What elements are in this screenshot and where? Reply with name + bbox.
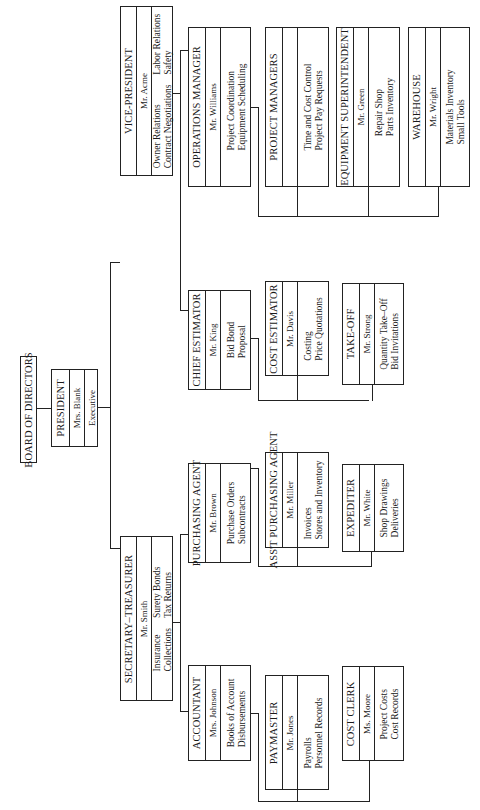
warehouse-duty: Small Tools	[456, 69, 467, 144]
costest-duty: Price Quotations	[314, 297, 325, 361]
paymaster-box[interactable]: PAYMASTER Mr. Jones PayrollsPersonnel Re…	[265, 675, 329, 790]
president-title: PRESIDENT	[54, 379, 66, 437]
connector-takeoff	[372, 385, 373, 401]
connector-chief-bottom	[258, 400, 369, 401]
st-title: SECRETARY–TREASURER	[122, 554, 134, 682]
asst-name: Mr. Miller	[285, 481, 295, 519]
accountant-box[interactable]: ACCOUNTANT Mrs. Johnson Books of Account…	[188, 665, 251, 761]
connector-to-acct	[180, 711, 188, 712]
purch-duty: Purchase Orders	[226, 482, 237, 545]
expediter-box[interactable]: EXPEDITER Mr. White Shop DrawingsDeliver…	[342, 464, 404, 552]
expediter-title: EXPEDITER	[345, 479, 357, 537]
costest-title: COST ESTIMATOR	[268, 284, 280, 373]
acct-title: ACCOUNTANT	[191, 677, 203, 750]
connector-cost-est	[297, 375, 298, 401]
operations-manager-box[interactable]: OPERATIONS MANAGER Mr. Williams Project …	[188, 27, 251, 187]
vp-name: Mr. Acme	[139, 73, 149, 109]
warehouse-title: WAREHOUSE	[411, 74, 423, 140]
ops-duty: Project Coordination	[226, 64, 237, 151]
asst-duty: Stores and Inventory	[314, 460, 325, 539]
purch-name: Mr. Brown	[208, 493, 218, 533]
expediter-duty: Shop Drawings	[379, 479, 390, 538]
expediter-duty: Deliveries	[390, 479, 401, 538]
vp-title: VICE-PRESIDENT	[122, 48, 134, 134]
take-off-box[interactable]: TAKE-OFF Mr. Strong Quantity Take–OffBid…	[342, 283, 404, 385]
ops-name: Mr. Williams	[208, 83, 218, 130]
paymaster-title: PAYMASTER	[268, 701, 280, 764]
chief-name: Mr. King	[208, 323, 218, 356]
connector-acct-bus	[258, 713, 259, 802]
equip-title: EQUIPMENT SUPERINTENDENT	[339, 28, 351, 186]
purch-title: PURCHASING AGENT	[191, 460, 203, 566]
connector-st-bus	[180, 534, 181, 712]
acct-name: Mrs. Johnson	[208, 689, 218, 738]
cost-clerk-box[interactable]: COST CLERK Ms. Moore Project CostsCost R…	[342, 666, 404, 761]
connector-trunk	[110, 262, 111, 549]
purch-duty: Subcontracts	[237, 482, 248, 545]
takeoff-duty: Bid Invitations	[390, 298, 401, 370]
connector-ops-bus	[258, 107, 259, 217]
board-of-directors-box[interactable]: BOARD OF DIRECTORS	[20, 356, 37, 463]
takeoff-duty: Quantity Take–Off	[379, 298, 390, 370]
st-duty: Tax Returns	[163, 566, 174, 617]
st-duty: Surety Bonds	[152, 566, 163, 617]
expediter-name: Mr. White	[362, 490, 372, 527]
president-duty: Executive	[87, 390, 97, 426]
warehouse-duty: Materials Inventory	[445, 69, 456, 144]
vp-duty: Owner Relations	[152, 85, 163, 169]
pm-duty: Time and Cost Control	[303, 63, 314, 150]
project-managers-box[interactable]: PROJECT MANAGERS Time and Cost ControlPr…	[265, 27, 329, 187]
vice-president-box[interactable]: VICE-PRESIDENT Mr. Acme Owner RelationsC…	[120, 6, 173, 176]
president-name: Mrs. Blank	[72, 388, 82, 429]
costclerk-duty: Project Costs	[379, 688, 390, 739]
vp-duty: Safety	[163, 14, 174, 75]
president-box[interactable]: PRESIDENT Mrs. Blank Executive	[51, 369, 98, 447]
connector-purch-bus	[258, 468, 259, 567]
connector-board-president	[37, 408, 51, 409]
warehouse-box[interactable]: WAREHOUSE Mr. Wright Materials Inventory…	[408, 27, 470, 187]
chief-title: CHIEF ESTIMATOR	[191, 293, 203, 386]
costest-name: Mr. Davis	[285, 311, 295, 347]
connector-equip	[368, 186, 369, 217]
takeoff-name: Mr. Strong	[362, 314, 372, 353]
chief-estimator-box[interactable]: CHIEF ESTIMATOR Mr. King Bid BondProposa…	[188, 290, 251, 390]
paymaster-name: Mr. Jones	[285, 715, 295, 750]
connector-warehouse	[438, 186, 439, 217]
equip-duty: Parts Inventory	[385, 78, 396, 136]
pm-duty: Project Pay Requests	[314, 63, 325, 150]
connector-trunk-st	[110, 548, 120, 549]
chief-duty: Proposal	[237, 322, 248, 359]
costclerk-name: Ms. Moore	[362, 694, 372, 734]
secretary-treasurer-box[interactable]: SECRETARY–TREASURER Mr. Smith InsuranceC…	[120, 536, 173, 701]
vp-duty: Labor Relations	[152, 14, 163, 75]
warehouse-name: Mr. Wright	[428, 87, 438, 127]
connector-vp-bus	[180, 50, 181, 310]
st-duty: Insurance	[152, 628, 163, 671]
connector-pm	[297, 186, 298, 217]
purchasing-agent-box[interactable]: PURCHASING AGENT Mr. Brown Purchase Orde…	[188, 463, 251, 563]
connector-ops-bottom	[258, 216, 439, 217]
ops-title: OPERATIONS MANAGER	[191, 46, 203, 168]
connector-asst	[297, 548, 298, 567]
connector-to-chief	[180, 310, 188, 311]
chief-duty: Bid Bond	[226, 322, 237, 359]
connector-costclerk	[369, 760, 370, 802]
equip-name: Mr. Green	[356, 89, 366, 126]
acct-duty: Disbursements	[237, 679, 248, 748]
asst-duty: Invoices	[303, 460, 314, 539]
board-title: BOARD OF DIRECTORS	[22, 352, 34, 467]
equip-duty: Repair Shop	[374, 78, 385, 136]
costclerk-title: COST CLERK	[345, 681, 357, 746]
connector-to-ops	[180, 50, 188, 51]
st-duty: Collections	[163, 628, 174, 671]
connector-paymaster	[297, 790, 298, 802]
equipment-superintendent-box[interactable]: EQUIPMENT SUPERINTENDENT Mr. Green Repai…	[336, 27, 400, 187]
vp-duty: Contract Negotiations	[163, 85, 174, 169]
paymaster-duty: Payrolls	[303, 697, 314, 768]
acct-duty: Books of Account	[226, 679, 237, 748]
connector-trunk-vp	[110, 262, 120, 263]
paymaster-duty: Personnel Records	[314, 697, 325, 768]
costclerk-duty: Cost Records	[390, 688, 401, 739]
cost-estimator-box[interactable]: COST ESTIMATOR Mr. Davis CostingPrice Qu…	[265, 281, 329, 376]
asst-purchasing-agent-box[interactable]: ASS'T PURCHASING AGENT Mr. Miller Invoic…	[265, 452, 329, 548]
